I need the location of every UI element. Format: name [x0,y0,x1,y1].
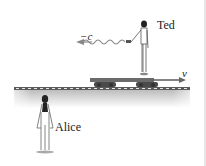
track-tie [58,88,61,89]
track-tie [160,88,163,89]
right-edge-divider [204,0,206,166]
track-tie [40,88,43,89]
track-tie [76,88,79,89]
alice-head [42,95,48,103]
track-tie [130,88,133,89]
track-tie [70,88,73,89]
track-tie [124,88,127,89]
track-tie [34,88,37,89]
track-tie [106,88,109,89]
track-tie [94,88,97,89]
track-tie [136,88,139,89]
track-tie [172,88,175,89]
track-tie [148,88,151,89]
ground [14,88,190,108]
track-tie [46,88,49,89]
alice-label: Alice [55,121,81,133]
ted-head [141,20,147,27]
flatcar [90,78,158,87]
track-tie [16,88,19,89]
track-tie [64,88,67,89]
track-tie [88,88,91,89]
light-velocity-label: −c [80,31,92,42]
track-tie [178,88,181,89]
relativity-diagram: Ted −c v Alice [0,0,206,166]
track-tie [22,88,25,89]
track-tie [28,88,31,89]
track-tie [100,88,103,89]
track-tie [118,88,121,89]
track-tie [166,88,169,89]
car-velocity-label: v [182,68,187,79]
ted-label: Ted [157,19,175,31]
track-tie [52,88,55,89]
diagram-canvas [0,0,206,166]
ted-figure [126,20,148,75]
track-tie [184,88,187,89]
flashlight-icon [126,40,131,43]
railroad-track [14,87,190,90]
track-tie [112,88,115,89]
track-tie [142,88,145,89]
track-tie [82,88,85,89]
track-tie [154,88,157,89]
